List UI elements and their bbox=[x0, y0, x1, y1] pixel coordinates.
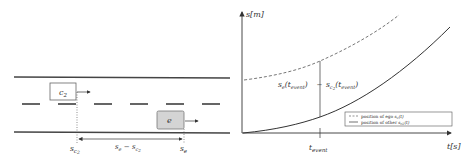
series-ego-dashed bbox=[244, 15, 399, 80]
pos-ego-label: se bbox=[180, 144, 188, 154]
vehicle-ego-label: e bbox=[167, 116, 172, 125]
position-time-chart: s[m] t[s] tevent se(tevent) − sc2(tevent… bbox=[242, 10, 461, 153]
legend: position of ego se(t) position of other … bbox=[345, 112, 452, 126]
x-axis-label: t[s] bbox=[447, 142, 461, 151]
y-axis-label: s[m] bbox=[246, 10, 265, 19]
diagram-canvas: c2 e sc2 se − sc2 se s[m] t[s] tevent s bbox=[0, 0, 468, 159]
gap-label: se − sc2 bbox=[115, 143, 141, 153]
road-scene: c2 e sc2 se − sc2 se bbox=[14, 77, 230, 155]
vehicle-other-c2: c2 bbox=[50, 83, 90, 100]
pos-other-label: sc2 bbox=[70, 144, 80, 155]
gap-annotation-minus: − bbox=[317, 81, 323, 89]
road-top-edge bbox=[14, 77, 230, 78]
event-x-tick-label: tevent bbox=[309, 143, 328, 153]
road-bottom-edge bbox=[14, 132, 230, 133]
gap-annotation-right: sc2(tevent) bbox=[326, 80, 358, 91]
vehicle-ego-e: e bbox=[157, 111, 198, 129]
gap-annotation-left: se(tevent) bbox=[278, 80, 308, 90]
